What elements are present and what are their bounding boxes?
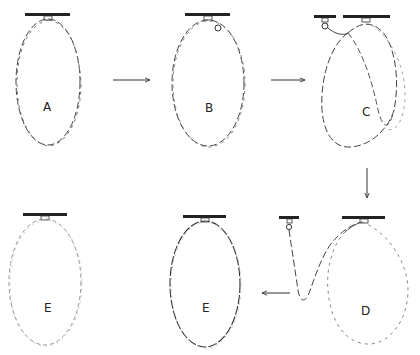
panel-b (172, 13, 245, 147)
dna-tail (289, 222, 362, 300)
label-d: D (361, 304, 370, 318)
membrane-bar-small (314, 15, 336, 18)
diagram-canvas (0, 0, 420, 355)
dna-strand-2 (17, 20, 81, 146)
dna-strand-1 (9, 219, 81, 345)
dna-crossover (348, 33, 394, 125)
attachment-site (362, 18, 370, 22)
label-a: A (43, 100, 51, 114)
dna-strand-2 (366, 22, 405, 130)
membrane-bar (25, 13, 70, 16)
membrane-bar (183, 215, 226, 218)
dna-strand-1 (170, 221, 240, 347)
nick-marker-icon (322, 23, 328, 29)
membrane-bar (343, 15, 390, 18)
membrane-bar (342, 216, 385, 219)
attachment-site (322, 18, 328, 22)
panel-e-middle (170, 215, 241, 348)
attachment-site (204, 16, 212, 20)
nick-marker-icon (286, 224, 291, 229)
panel-a (16, 13, 81, 146)
dna-strand-2 (10, 220, 82, 346)
membrane-bar (185, 13, 230, 16)
panel-c (314, 15, 405, 147)
label-c: C (362, 105, 370, 119)
label-e-middle: E (202, 301, 210, 315)
dna-loop (328, 222, 408, 344)
panel-d (279, 216, 408, 344)
label-e-left: E (44, 301, 52, 315)
dna-strand-1 (322, 24, 397, 147)
membrane-bar-small (279, 216, 299, 219)
attachment-site (287, 219, 292, 223)
nick-marker-icon (215, 25, 221, 31)
panel-e-left (9, 213, 82, 346)
label-b: B (205, 101, 213, 115)
membrane-bar (23, 213, 67, 216)
